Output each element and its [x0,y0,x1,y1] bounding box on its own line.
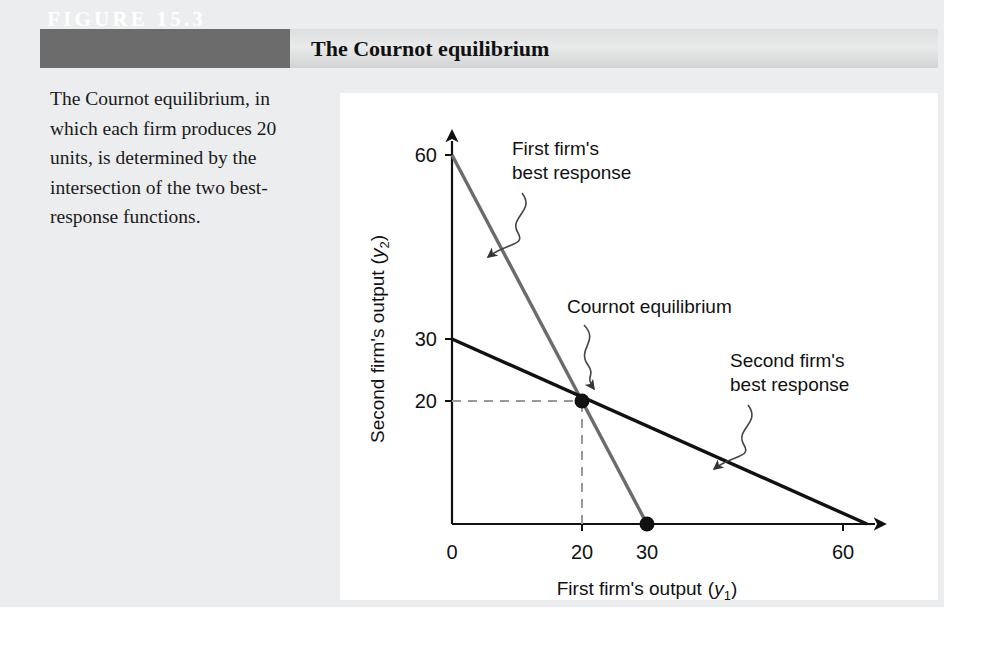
annotation-first-firm-line2: best response [512,162,631,183]
y-axis-title-subscript: 2 [377,241,392,248]
y-tick-label-30: 30 [415,328,437,350]
equilibrium-guides [452,401,582,524]
y-axis-title: Second firm's output [367,270,388,443]
annotation-cournot-line1: Cournot equilibrium [567,296,732,317]
y-tick-label-60: 60 [415,144,437,166]
annotation-first-firm-line1: First firm's [512,138,599,159]
cournot-equilibrium-point [575,394,590,409]
chart-axes [452,141,875,524]
figure-caption: The Cournot equilibrium, in which each f… [50,84,298,232]
x-axis-title-subscript: 1 [724,588,731,600]
x-tick-label-0: 0 [446,541,457,563]
chart-ticks [445,155,843,531]
x-axis-title-group: First firm's output(y1) [557,578,738,600]
y-axis-title-group: Second firm's output(y2) [367,235,392,443]
annotation-cournot-equilibrium: Cournot equilibrium [567,296,732,389]
annotation-second-firm-best-response: Second firm's best response [714,350,849,469]
first-firm-best-response-line [452,155,647,524]
cournot-equilibrium-chart: 60 30 20 0 20 30 60 Second firm's output… [340,93,938,600]
x-axis-title: First firm's output [557,578,703,599]
figure-title: The Cournot equilibrium [311,29,549,68]
first-firm-x-intercept-point [640,517,655,532]
svg-text:Second firm's output(y2): Second firm's output(y2) [367,235,392,443]
annotation-first-firm-best-response: First firm's best response [488,138,631,257]
figure-page: FIGURE 15.3 The Cournot equilibrium The … [0,0,1006,648]
x-tick-label-20: 20 [571,541,593,563]
annotation-cournot-arrow [584,325,594,389]
annotation-second-firm-line1: Second firm's [730,350,845,371]
chart-panel: 60 30 20 0 20 30 60 Second firm's output… [340,93,938,600]
figure-number-label: FIGURE 15.3 [0,0,250,39]
annotation-second-firm-line2: best response [730,374,849,395]
x-tick-label-30: 30 [636,541,658,563]
x-tick-label-60: 60 [832,541,854,563]
y-tick-label-20: 20 [415,390,437,412]
annotation-first-firm-arrow [488,193,526,257]
